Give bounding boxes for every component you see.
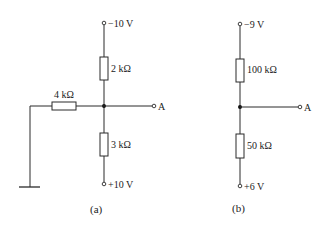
resistor-3k <box>100 133 108 156</box>
terminal-b-bottom <box>238 184 242 188</box>
label-resistor-50k: 50 kΩ <box>247 140 272 151</box>
terminal-b-output <box>298 105 302 109</box>
circuit-diagram: −10 V 2 kΩ A 4 kΩ 3 kΩ +10 V (a) −9 V <box>0 0 323 229</box>
terminal-a-top <box>102 21 106 25</box>
label-resistor-4k: 4 kΩ <box>54 89 74 100</box>
terminal-a-output <box>152 104 156 108</box>
circuit-a: −10 V 2 kΩ A 4 kΩ 3 kΩ +10 V (a) <box>19 18 166 216</box>
caption-a: (a) <box>90 203 103 216</box>
label-b-bottom-supply: +6 V <box>244 181 265 192</box>
label-a-output-node: A <box>158 101 166 112</box>
label-b-top-supply: −9 V <box>244 19 265 30</box>
label-resistor-2k: 2 kΩ <box>111 63 131 74</box>
resistor-2k <box>100 57 108 80</box>
circuit-b: −9 V 100 kΩ A 50 kΩ +6 V (b) <box>232 19 312 215</box>
resistor-50k <box>236 134 244 158</box>
label-a-bottom-supply: +10 V <box>108 179 134 190</box>
terminal-b-top <box>238 22 242 26</box>
resistor-100k <box>236 59 244 82</box>
terminal-a-bottom <box>102 182 106 186</box>
label-a-top-supply: −10 V <box>108 18 134 29</box>
caption-b: (b) <box>232 202 245 215</box>
label-resistor-3k: 3 kΩ <box>111 139 131 150</box>
resistor-4k <box>52 102 76 110</box>
label-b-output-node: A <box>304 102 312 113</box>
label-resistor-100k: 100 kΩ <box>247 64 277 75</box>
